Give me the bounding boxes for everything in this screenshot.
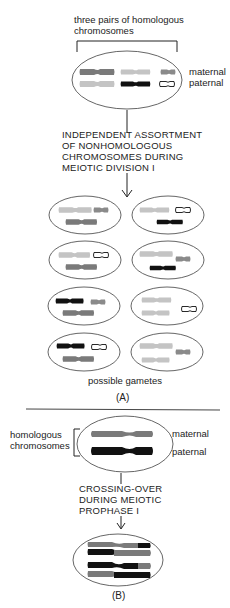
parent-chromosomes <box>80 69 176 87</box>
gametes-caption: possible gametes <box>88 375 162 386</box>
chromosomes-after <box>88 542 151 578</box>
gamete-3 <box>49 241 121 279</box>
panel-divider <box>26 409 220 410</box>
process-line3: CHROMOSOMES DURING <box>62 151 183 162</box>
chromosome-medium-paternal <box>121 81 151 86</box>
panel-a: three pairs of homologous chromosomes ma… <box>48 14 226 403</box>
process-line1: INDEPENDENT ASSORTMENT <box>62 129 202 140</box>
gamete-1 <box>49 196 121 234</box>
panel-b: homologous chromosomes maternal paternal… <box>10 416 209 601</box>
label-maternal-b: maternal <box>172 428 209 439</box>
chromosome-small-maternal <box>161 70 176 75</box>
side-label-line1: homologous <box>10 429 62 440</box>
process-b-line3: PROPHASE I <box>79 505 139 516</box>
chromosome-small-paternal <box>160 82 175 87</box>
gamete-2 <box>132 196 204 234</box>
panel-b-label: (B) <box>112 590 125 601</box>
bracket <box>77 41 177 52</box>
meiosis-diagram: three pairs of homologous chromosomes ma… <box>0 0 230 608</box>
top-caption-line2: chromosomes <box>74 25 134 36</box>
gametes-grid <box>48 196 204 371</box>
side-label-line2: chromosomes <box>10 440 70 451</box>
label-paternal: paternal <box>189 77 223 88</box>
gamete-4 <box>132 241 204 279</box>
process-b-line2: DURING MEIOTIC <box>79 494 162 505</box>
crossover-cell-before <box>77 416 173 472</box>
process-b-line1: CROSSING-OVER <box>79 483 162 494</box>
gamete-6 <box>131 287 203 325</box>
chromosome-maternal <box>91 431 153 437</box>
gamete-8 <box>131 333 203 371</box>
gamete-5 <box>48 287 120 325</box>
label-maternal: maternal <box>189 66 226 77</box>
gamete-7 <box>48 333 120 371</box>
label-paternal-b: paternal <box>172 446 206 457</box>
parent-cell <box>72 51 182 109</box>
chromosome-large-maternal <box>80 69 115 75</box>
chromosome-medium-maternal <box>121 69 151 74</box>
panel-a-label: (A) <box>116 392 129 403</box>
process-line2: OF NONHOMOLOGOUS <box>62 140 172 151</box>
chromosomes-before <box>91 431 153 455</box>
crossover-cell-after <box>73 534 163 586</box>
chromosome-large-paternal <box>80 81 115 87</box>
top-caption-line1: three pairs of homologous <box>74 14 184 25</box>
chromosome-paternal <box>91 447 153 455</box>
process-line4: MEIOTIC DIVISION I <box>62 162 155 173</box>
